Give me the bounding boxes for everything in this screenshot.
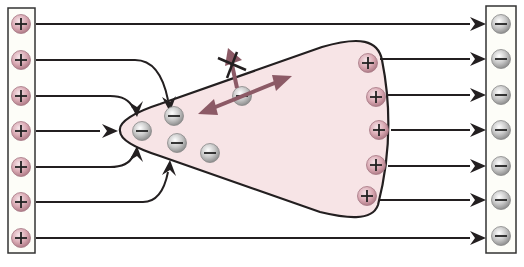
arrowhead-icon [470,17,486,31]
conductor-field-diagram [0,0,524,267]
body-charge [165,107,184,126]
plate-charge [12,229,31,248]
body-charge [367,88,386,107]
arrowhead-icon [470,231,486,245]
plate-charge [492,121,511,140]
plate-charge [12,87,31,106]
field-line [36,60,168,100]
arrowhead-icon [470,123,486,137]
diagram-canvas [0,0,524,267]
conductor-outline [120,41,388,217]
arrowhead-icon [470,193,486,207]
plate-charge [492,227,511,246]
arrowhead-icon [102,124,118,138]
arrowhead-icon [470,159,486,173]
plate-charge [492,15,511,34]
body-charge [358,187,377,206]
plate-charge [492,50,511,69]
body-charge [133,122,152,141]
plate-charge [492,157,511,176]
body-charge [367,156,386,175]
body-charge [201,144,220,163]
plate-charge [12,122,31,141]
field-line [36,156,133,167]
plate-charge [12,193,31,212]
body-charge [370,121,389,140]
plate-charge [492,191,511,210]
plate-charge [12,158,31,177]
plate-charge [12,51,31,70]
conductor-body [120,41,388,217]
arrowhead-icon [470,88,486,102]
field-line [36,172,168,202]
body-charge [168,134,187,153]
field-line [36,96,133,108]
body-charge [359,54,378,73]
arrowhead-icon [162,160,176,176]
arrowhead-icon [470,52,486,66]
plate-charge [492,86,511,105]
plate-charge [12,15,31,34]
